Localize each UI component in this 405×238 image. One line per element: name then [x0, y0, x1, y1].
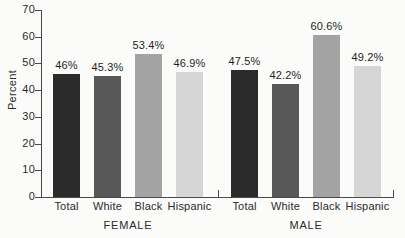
y-tick [35, 37, 41, 38]
y-tick [35, 90, 41, 91]
bar-value-label: 45.3% [85, 61, 130, 73]
y-tick-label: 10 [2, 163, 35, 175]
axis-separator-tick [218, 190, 219, 198]
bar-chart: Percent 010203040506070 46%45.3%53.4%46.… [0, 0, 405, 238]
y-tick-label: 20 [2, 137, 35, 149]
bar[interactable] [176, 72, 203, 197]
y-tick-label: 30 [2, 110, 35, 122]
bar[interactable] [313, 35, 340, 197]
y-tick-label: 70 [2, 3, 35, 15]
bar[interactable] [231, 70, 258, 197]
bar[interactable] [354, 66, 381, 197]
bar-value-label: 46.9% [167, 57, 212, 69]
category-label: Hispanic [165, 200, 214, 212]
bar-value-label: 49.2% [345, 51, 390, 63]
bar-value-label: 46% [44, 59, 89, 71]
y-tick-label: 40 [2, 83, 35, 95]
y-tick-label: 0 [2, 190, 35, 202]
bar-value-label: 42.2% [263, 69, 308, 81]
bar-value-label: 60.6% [304, 20, 349, 32]
bar-value-label: 47.5% [222, 55, 267, 67]
x-axis-line [41, 197, 393, 198]
axis-separator-tick [393, 190, 394, 198]
bar-value-label: 53.4% [126, 39, 171, 51]
group-label: MALE [231, 219, 381, 231]
bar[interactable] [272, 84, 299, 197]
y-tick [35, 170, 41, 171]
y-tick [35, 63, 41, 64]
group-label: FEMALE [53, 219, 203, 231]
y-tick [35, 197, 41, 198]
bar[interactable] [53, 74, 80, 197]
y-tick-label: 50 [2, 56, 35, 68]
category-label: Hispanic [343, 200, 392, 212]
y-tick [35, 144, 41, 145]
y-tick [35, 10, 41, 11]
bar[interactable] [94, 76, 121, 197]
y-tick-label: 60 [2, 30, 35, 42]
bar[interactable] [135, 54, 162, 197]
plot-area: 46%45.3%53.4%46.9%47.5%42.2%60.6%49.2% [42, 10, 393, 197]
y-tick [35, 117, 41, 118]
